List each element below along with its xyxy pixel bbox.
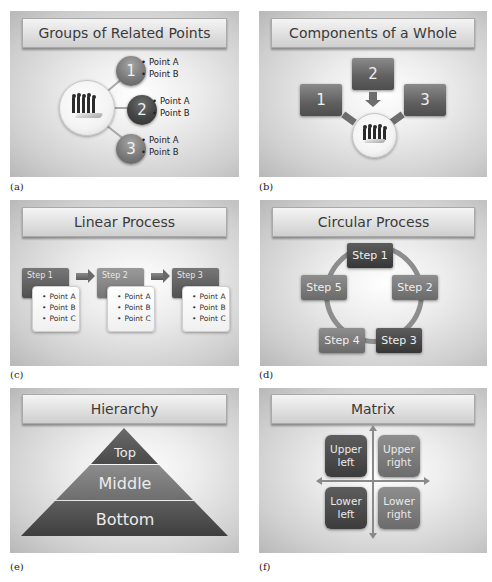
hand-shape bbox=[364, 139, 386, 143]
pyramid-level-top: Top bbox=[94, 440, 156, 464]
step-card-2: Point A Point B Point C bbox=[107, 286, 155, 332]
slide-linear-process: Linear Process Step 1 Point A Point B Po… bbox=[10, 200, 239, 366]
pyramid-level-middle: Middle bbox=[66, 468, 184, 498]
cycle-step-5: Step 5 bbox=[301, 275, 347, 300]
panel-label-b: (b) bbox=[259, 181, 273, 192]
slide-title: Linear Process bbox=[22, 207, 227, 237]
slide-title: Circular Process bbox=[272, 207, 475, 237]
panel-label-d: (d) bbox=[259, 369, 273, 380]
arrow-down-icon-head bbox=[365, 100, 381, 107]
slide-title: Components of a Whole bbox=[271, 18, 475, 48]
slide-components-of-a-whole: Components of a Whole 2 1 3 bbox=[259, 11, 487, 177]
panel-label-c: (c) bbox=[10, 369, 23, 380]
cycle-step-4: Step 4 bbox=[319, 328, 365, 353]
hand-shape bbox=[75, 113, 103, 118]
quadrant-upper-left: Upperleft bbox=[325, 435, 367, 477]
arrow-down-icon bbox=[369, 533, 377, 539]
component-box-2: 2 bbox=[352, 58, 394, 90]
quadrant-lower-right: Lowerright bbox=[378, 487, 420, 529]
slide-hierarchy: Hierarchy Top Middle Bottom bbox=[10, 388, 239, 553]
panel-label-f: (f) bbox=[259, 561, 271, 572]
cycle-step-2: Step 2 bbox=[392, 275, 438, 300]
slide-title: Matrix bbox=[271, 394, 475, 424]
arrow-up-icon bbox=[369, 425, 377, 431]
slide-groups-of-related-points: Groups of Related Points 1 2 3 Point A P… bbox=[10, 11, 239, 177]
quadrant-lower-left: Lowerleft bbox=[325, 487, 367, 529]
panel-label-e: (e) bbox=[10, 561, 24, 572]
arrow-right-icon bbox=[76, 273, 88, 280]
group-2-points: Point A Point B bbox=[152, 95, 190, 119]
cycle-step-3: Step 3 bbox=[376, 328, 422, 353]
step-card-3: Point A Point B Point C bbox=[182, 286, 230, 332]
people-on-hand-icon bbox=[59, 80, 115, 136]
component-box-3: 3 bbox=[404, 84, 446, 116]
arrow-right-icon bbox=[151, 273, 163, 280]
quadrant-upper-right: Upperright bbox=[378, 435, 420, 477]
arrow-right-icon bbox=[424, 477, 430, 485]
horizontal-axis bbox=[321, 480, 425, 482]
vertical-axis bbox=[372, 430, 374, 534]
arrow-down-icon bbox=[369, 92, 377, 100]
pyramid-level-bottom: Bottom bbox=[40, 504, 210, 534]
slide-matrix: Matrix Upperleft Upperright Lowerleft Lo… bbox=[259, 388, 487, 553]
slide-circular-process: Circular Process Step 1 Step 2 Step 3 St… bbox=[260, 200, 487, 366]
arrow-left-icon bbox=[316, 477, 322, 485]
people-figures bbox=[72, 93, 95, 113]
group-1-points: Point A Point B bbox=[141, 56, 179, 80]
step-card-1: Point A Point B Point C bbox=[32, 286, 80, 332]
people-figures bbox=[363, 124, 386, 140]
component-box-1: 1 bbox=[300, 84, 342, 116]
group-3-points: Point A Point B bbox=[141, 134, 179, 158]
panel-label-a: (a) bbox=[10, 181, 24, 192]
slide-title: Groups of Related Points bbox=[22, 18, 227, 48]
cycle-step-1: Step 1 bbox=[347, 243, 393, 268]
people-on-hand-icon bbox=[352, 113, 397, 158]
